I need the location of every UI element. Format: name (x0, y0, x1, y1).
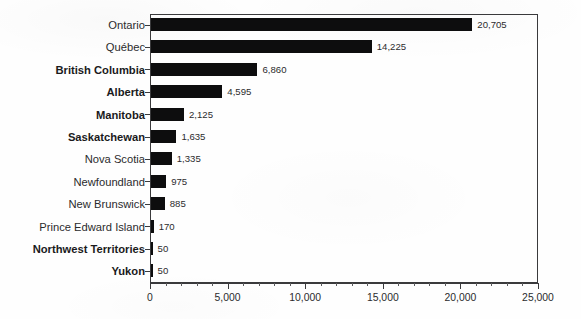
category-label: Ontario (0, 14, 145, 36)
bar-value-label: 14,225 (377, 36, 406, 58)
category-label: Saskatchewan (0, 126, 145, 148)
y-axis-tick (145, 204, 150, 205)
bar (151, 63, 257, 76)
bar-row: New Brunswick885 (0, 193, 581, 215)
x-tick-minor (166, 283, 167, 286)
x-tick-label: 0 (147, 291, 153, 305)
bar (151, 108, 184, 121)
bar-row: Ontario20,705 (0, 14, 581, 36)
x-tick-major (383, 283, 384, 289)
x-tick-label: 5,000 (215, 291, 241, 305)
bar-value-label: 4,595 (227, 81, 251, 103)
bar (151, 40, 372, 53)
x-tick-label: 25,000 (522, 291, 554, 305)
x-tick-major (228, 283, 229, 289)
bar-row: Nova Scotia1,335 (0, 148, 581, 170)
x-tick-minor (259, 283, 260, 286)
x-tick-minor (321, 283, 322, 286)
x-tick-minor (414, 283, 415, 286)
x-tick-minor (491, 283, 492, 286)
bar-row: British Columbia6,860 (0, 59, 581, 81)
x-tick-label: 15,000 (367, 291, 399, 305)
bar-row: Yukon50 (0, 260, 581, 282)
y-axis-tick (145, 137, 150, 138)
bar (151, 220, 154, 233)
x-tick-minor (290, 283, 291, 286)
x-axis-line (150, 283, 539, 284)
x-tick-minor (243, 283, 244, 286)
y-axis-tick (145, 69, 150, 70)
y-axis-tick (145, 92, 150, 93)
bar-row: Prince Edward Island170 (0, 216, 581, 238)
x-tick-minor (352, 283, 353, 286)
bar (151, 242, 153, 255)
bar-value-label: 885 (170, 193, 186, 215)
y-axis-tick (145, 159, 150, 160)
bar (151, 175, 166, 188)
x-tick-minor (507, 283, 508, 286)
category-label: Northwest Territories (0, 238, 145, 260)
bar-value-label: 1,635 (181, 126, 205, 148)
bar-value-label: 975 (171, 171, 187, 193)
category-label: Nova Scotia (0, 148, 145, 170)
y-axis-tick (145, 181, 150, 182)
bar (151, 264, 153, 277)
bar-row: Saskatchewan1,635 (0, 126, 581, 148)
bar (151, 130, 176, 143)
category-label: British Columbia (0, 59, 145, 81)
x-tick-minor (197, 283, 198, 286)
bar-value-label: 2,125 (189, 104, 213, 126)
bar (151, 197, 165, 210)
x-tick-label: 10,000 (289, 291, 321, 305)
x-tick-minor (445, 283, 446, 286)
x-tick-minor (367, 283, 368, 286)
bar-row: Manitoba2,125 (0, 104, 581, 126)
bar-row: Newfoundland975 (0, 171, 581, 193)
bar-value-label: 6,860 (262, 59, 286, 81)
category-label: Prince Edward Island (0, 216, 145, 238)
x-tick-minor (274, 283, 275, 286)
bar (151, 18, 472, 31)
x-tick-minor (336, 283, 337, 286)
y-axis-tick (145, 114, 150, 115)
bar-value-label: 50 (158, 238, 169, 260)
bar (151, 152, 172, 165)
x-tick-minor (429, 283, 430, 286)
x-tick-minor (476, 283, 477, 286)
category-label: New Brunswick (0, 193, 145, 215)
y-axis-tick (145, 249, 150, 250)
x-tick-major (538, 283, 539, 289)
x-tick-minor (398, 283, 399, 286)
bar-row: Alberta4,595 (0, 81, 581, 103)
x-tick-minor (212, 283, 213, 286)
bar-row: Northwest Territories50 (0, 238, 581, 260)
bar-value-label: 50 (158, 260, 169, 282)
bar-chart: Ontario20,705Québec14,225British Columbi… (0, 0, 581, 319)
bar-value-label: 20,705 (477, 14, 506, 36)
category-label: Manitoba (0, 104, 145, 126)
x-tick-major (460, 283, 461, 289)
y-axis-tick (145, 226, 150, 227)
category-label: Newfoundland (0, 171, 145, 193)
bar (151, 85, 222, 98)
x-tick-label: 20,000 (445, 291, 477, 305)
bar-value-label: 1,335 (177, 148, 201, 170)
bar-value-label: 170 (159, 216, 175, 238)
category-label: Alberta (0, 81, 145, 103)
category-label: Québec (0, 36, 145, 58)
x-tick-minor (181, 283, 182, 286)
x-tick-major (305, 283, 306, 289)
x-tick-minor (522, 283, 523, 286)
bar-row: Québec14,225 (0, 36, 581, 58)
y-axis-tick (145, 25, 150, 26)
category-label: Yukon (0, 260, 145, 282)
y-axis-tick (145, 47, 150, 48)
y-axis-tick (145, 271, 150, 272)
x-tick-major (150, 283, 151, 289)
